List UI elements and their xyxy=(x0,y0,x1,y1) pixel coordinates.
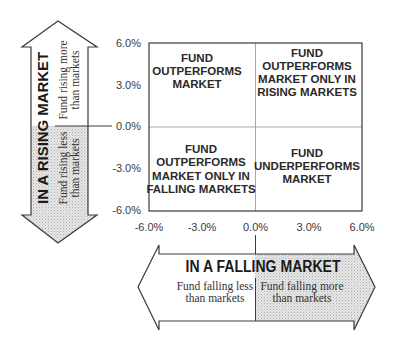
falling-right-line-2: than markets xyxy=(272,292,332,304)
quadrant-label: FUND xyxy=(181,52,213,64)
falling-arrow-title: IN A FALLING MARKET xyxy=(186,258,341,275)
rising-lower-line-2: than markets xyxy=(69,138,81,198)
y-tick-label: -3.0% xyxy=(112,162,141,174)
quadrant-label: OUTPERFORMS xyxy=(262,60,352,72)
y-tick-label: 6.0% xyxy=(116,37,141,49)
falling-left-line-2: than markets xyxy=(185,292,245,304)
quadrant-top-right: FUND OUTPERFORMS MARKET ONLY IN RISING M… xyxy=(257,47,357,98)
y-axis: 6.0% 3.0% 0.0% -3.0% -6.0% xyxy=(112,37,141,216)
quadrant-label: MARKET xyxy=(282,173,331,185)
quadrant-label: OUTPERFORMS xyxy=(156,156,246,168)
quadrant-label: MARKET ONLY IN xyxy=(258,73,356,85)
quadrant-label: MARKET xyxy=(172,78,221,90)
quadrant-label: UNDERPERFORMS xyxy=(254,160,360,172)
quadrant-diagram: IN A RISING MARKET Fund rising more than… xyxy=(0,0,393,348)
quadrant-label: FUND xyxy=(185,143,217,155)
rising-arrow-title: IN A RISING MARKET xyxy=(35,52,51,204)
quadrant-label: MARKET ONLY IN xyxy=(152,170,250,182)
falling-market-arrow: IN A FALLING MARKET Fund falling less th… xyxy=(138,235,375,330)
x-tick-label: 6.0% xyxy=(349,221,374,233)
y-tick-label: 3.0% xyxy=(116,79,141,91)
x-tick-label: 0.0% xyxy=(243,221,268,233)
quadrant-top-left: FUND OUTPERFORMS MARKET xyxy=(152,52,242,90)
quadrant-label: OUTPERFORMS xyxy=(152,65,242,77)
quadrant-label: FUND xyxy=(291,147,323,159)
quadrant-label: FUND xyxy=(291,47,323,59)
x-tick-label: 3.0% xyxy=(296,221,321,233)
quadrant-label: FALLING MARKETS xyxy=(146,183,256,195)
x-axis: -6.0% -3.0% 0.0% 3.0% 6.0% xyxy=(135,221,375,233)
x-tick-label: -6.0% xyxy=(135,221,164,233)
rising-market-arrow: IN A RISING MARKET Fund rising more than… xyxy=(22,21,112,243)
quadrant-label: RISING MARKETS xyxy=(257,86,357,98)
quadrant-bottom-left: FUND OUTPERFORMS MARKET ONLY IN FALLING … xyxy=(146,143,256,195)
y-tick-label: -6.0% xyxy=(112,204,141,216)
rising-upper-line-2: than markets xyxy=(69,50,81,110)
y-tick-label: 0.0% xyxy=(116,120,141,132)
quadrant-bottom-right: FUND UNDERPERFORMS MARKET xyxy=(254,147,360,185)
x-tick-label: -3.0% xyxy=(188,221,217,233)
